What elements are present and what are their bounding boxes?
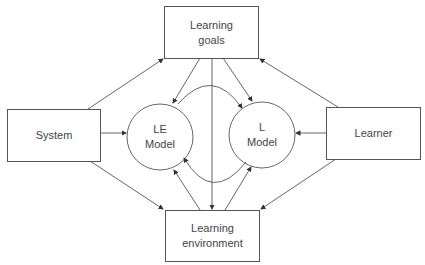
le-model-line1: LE <box>153 122 166 137</box>
le-model-line2: Model <box>145 137 175 152</box>
learning-goals-line1: Learning <box>190 18 233 33</box>
learning-environment-line2: environment <box>182 236 243 251</box>
learner-box: Learner <box>326 107 421 160</box>
learning-goals-box: Learning goals <box>164 6 259 59</box>
l-model-label: L Model <box>229 102 295 168</box>
learner-label: Learner <box>355 126 393 141</box>
l-model-line2: Model <box>247 135 277 150</box>
learning-goals-line2: goals <box>198 33 224 48</box>
system-label: System <box>36 128 73 143</box>
system-box: System <box>7 109 101 162</box>
le-model-label: LE Model <box>127 104 193 170</box>
l-model-line1: L <box>259 120 265 135</box>
learning-environment-box: Learning environment <box>165 210 260 262</box>
learning-environment-line1: Learning <box>191 221 234 236</box>
